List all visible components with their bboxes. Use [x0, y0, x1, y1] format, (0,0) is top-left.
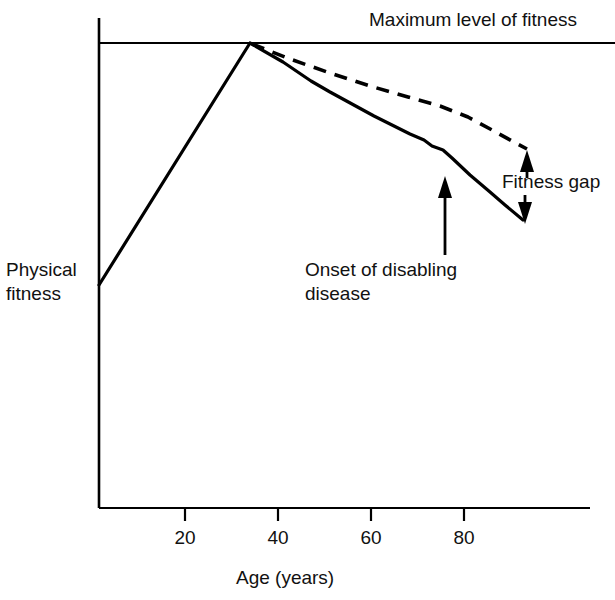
x-tick-label-60: 60: [351, 527, 391, 549]
onset-label-line1: Onset of disabling: [305, 258, 457, 281]
y-axis-label-line1: Physical: [6, 258, 77, 281]
fitness-age-chart: Maximum level of fitness Physical fitnes…: [0, 0, 615, 600]
x-axis-ticks: [185, 508, 464, 521]
onset-label-line2: disease: [305, 282, 371, 305]
onset-arrow: [438, 176, 452, 255]
y-axis-label-line2: fitness: [6, 282, 61, 305]
dashed-fitness-curve: [252, 44, 527, 149]
max-fitness-label: Maximum level of fitness: [369, 8, 577, 31]
x-tick-label-40: 40: [258, 527, 298, 549]
solid-fitness-curve: [99, 43, 523, 285]
x-tick-label-80: 80: [444, 527, 484, 549]
x-axis-title: Age (years): [236, 567, 334, 589]
x-tick-label-20: 20: [165, 527, 205, 549]
fitness-gap-label: Fitness gap: [502, 170, 600, 193]
